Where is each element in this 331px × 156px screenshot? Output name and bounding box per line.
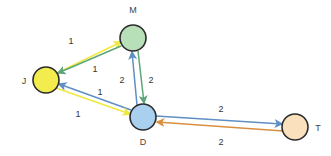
edge-weight-d-t: 2 xyxy=(218,104,223,114)
node-d[interactable] xyxy=(130,104,156,130)
edge-weight-d-m: 2 xyxy=(119,75,124,85)
labels-layer: 11221122MJDT xyxy=(22,5,322,147)
edge-d-to-j xyxy=(59,84,131,110)
node-label-j: J xyxy=(22,76,27,86)
edge-j-to-d xyxy=(56,88,130,114)
graph-diagram: 11221122MJDT xyxy=(0,0,331,156)
node-j[interactable] xyxy=(33,67,59,93)
graph-canvas: 11221122MJDT xyxy=(0,0,331,156)
edge-weight-d-j: 1 xyxy=(97,87,102,97)
node-label-m: M xyxy=(129,5,137,15)
edge-weight-m-j: 1 xyxy=(92,64,97,74)
edge-weight-j-d: 1 xyxy=(75,109,80,119)
node-m[interactable] xyxy=(120,25,146,51)
edge-weight-t-d: 2 xyxy=(218,137,223,147)
edge-m-to-d xyxy=(138,51,144,103)
edge-m-to-j xyxy=(58,46,121,73)
edges-layer xyxy=(56,42,283,131)
node-label-t: T xyxy=(315,123,321,133)
edge-weight-j-m: 1 xyxy=(68,36,73,46)
edge-j-to-m xyxy=(57,42,121,73)
edge-d-to-m xyxy=(132,52,137,105)
node-label-d: D xyxy=(140,137,147,147)
node-t[interactable] xyxy=(282,114,308,140)
edge-weight-m-d: 2 xyxy=(148,75,153,85)
